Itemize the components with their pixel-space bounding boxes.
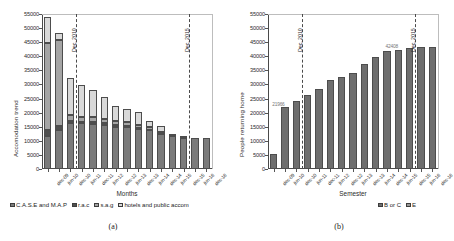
y-axis-tick-mark xyxy=(265,56,268,57)
panel-a: 0500010000150002000025000300003500040000… xyxy=(0,0,226,241)
bar-segment xyxy=(44,17,51,43)
plot-frame-right xyxy=(212,14,213,169)
bar-segment xyxy=(89,122,96,124)
x-axis-tick-label: dec-16 xyxy=(440,172,454,186)
y-axis-tick-mark xyxy=(39,141,42,142)
bar-segment xyxy=(44,130,51,135)
bar-segment xyxy=(349,73,356,169)
bar xyxy=(338,77,345,169)
y-axis-tick-mark xyxy=(39,155,42,156)
y-axis-tick-mark xyxy=(39,14,42,15)
plot-frame-right xyxy=(438,14,439,169)
legend-item[interactable]: hotels and public accom xyxy=(118,202,188,208)
bar-segment xyxy=(417,47,424,169)
legend-item[interactable]: s.a.g xyxy=(94,202,113,208)
bar-segment xyxy=(78,123,85,169)
bar-segment xyxy=(135,125,142,128)
x-axis-tick-mark xyxy=(364,169,365,172)
x-axis-tick-label: jun-14 xyxy=(156,172,169,185)
y-axis-tick-label: 30000 xyxy=(250,81,265,87)
bar-segment xyxy=(135,129,142,169)
y-axis-tick-label: 10000 xyxy=(24,138,39,144)
legend-label: s.a.g xyxy=(100,202,113,208)
y-axis-tick-mark xyxy=(265,84,268,85)
bar-segment xyxy=(112,121,119,125)
bar xyxy=(315,89,322,169)
legend-item[interactable]: C.A.S.E and M.A.P xyxy=(10,202,67,208)
bar-segment xyxy=(78,85,85,117)
bar xyxy=(349,73,356,169)
legend-swatch-icon xyxy=(406,203,411,208)
bar xyxy=(78,85,85,169)
bar-segment xyxy=(180,138,187,169)
bar xyxy=(112,106,119,169)
y-axis-tick-label: 45000 xyxy=(250,39,265,45)
bar-segment xyxy=(157,134,164,169)
legend-item[interactable]: E xyxy=(406,202,416,208)
legend-label: B or C xyxy=(384,202,401,208)
bar xyxy=(429,47,436,169)
bar-segment xyxy=(55,130,62,169)
bar-segment xyxy=(101,119,108,123)
y-axis-tick-label: 10000 xyxy=(250,138,265,144)
y-axis-tick-label: 35000 xyxy=(250,67,265,73)
bar xyxy=(146,121,153,169)
x-axis-tick-label: jun-12 xyxy=(111,172,124,185)
y-axis-tick-mark xyxy=(39,84,42,85)
bar xyxy=(281,107,288,169)
y-axis-tick-mark xyxy=(265,99,268,100)
bar-segment xyxy=(281,107,288,169)
y-axis-tick-label: 20000 xyxy=(24,110,39,116)
legend-swatch-icon xyxy=(118,203,123,208)
x-axis-tick-mark xyxy=(432,169,433,172)
bar-segment xyxy=(89,117,96,122)
bar-segment xyxy=(372,57,379,169)
y-axis-tick-mark xyxy=(39,99,42,100)
legend-item[interactable]: r.a.c xyxy=(72,202,89,208)
y-axis-tick-label: 50000 xyxy=(24,25,39,31)
bar-segment xyxy=(146,130,153,169)
annotation-label: Dec, 2015 xyxy=(410,28,416,52)
x-axis-tick-mark xyxy=(330,169,331,172)
bar-segment xyxy=(67,78,74,115)
y-axis-tick-mark xyxy=(39,127,42,128)
y-axis-tick-label: 40000 xyxy=(24,53,39,59)
bar-segment xyxy=(112,106,119,121)
x-axis-tick-mark xyxy=(184,169,185,172)
y-axis-tick-label: 40000 xyxy=(250,53,265,59)
bar-segment xyxy=(146,127,153,130)
bar-segment xyxy=(55,33,62,40)
bar-segment xyxy=(270,154,277,170)
bar-segment xyxy=(55,126,62,130)
bar-segment xyxy=(315,89,322,169)
bar-segment xyxy=(123,127,130,169)
legend-swatch-icon xyxy=(94,203,99,208)
y-axis-title: People returning home xyxy=(238,92,245,157)
bar-segment xyxy=(327,80,334,169)
y-axis-tick-label: 30000 xyxy=(24,81,39,87)
legend-item[interactable]: B or C xyxy=(378,202,401,208)
legend-swatch-icon xyxy=(378,203,383,208)
panel-b-caption: (b) xyxy=(226,222,452,231)
x-axis-tick-mark xyxy=(308,169,309,172)
x-axis-tick-mark xyxy=(150,169,151,172)
y-axis-tick-mark xyxy=(39,28,42,29)
y-axis-tick-label: 25000 xyxy=(250,96,265,102)
y-axis-tick-label: 55000 xyxy=(250,11,265,17)
y-axis-tick-mark xyxy=(39,113,42,114)
bar-value-label: 42408 xyxy=(386,44,398,49)
y-axis-tick-mark xyxy=(265,127,268,128)
x-axis-tick-mark xyxy=(70,169,71,172)
legend-label: E xyxy=(412,202,416,208)
y-axis-tick-mark xyxy=(265,113,268,114)
bar-segment xyxy=(78,117,85,122)
annotation-label: Dec, 2015 xyxy=(184,28,190,52)
bar xyxy=(270,154,277,170)
x-axis-tick-mark xyxy=(398,169,399,172)
bar-segment xyxy=(157,132,164,135)
x-axis-tick-label: jun-14 xyxy=(382,172,395,185)
x-axis-tick-mark xyxy=(82,169,83,172)
bar-segment xyxy=(191,138,198,169)
y-axis-tick-label: 5000 xyxy=(27,152,39,158)
bar xyxy=(55,33,62,169)
